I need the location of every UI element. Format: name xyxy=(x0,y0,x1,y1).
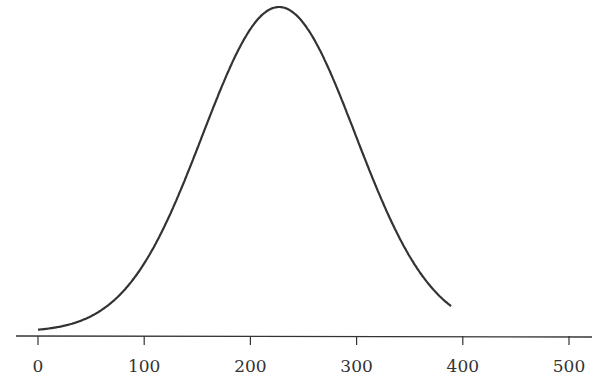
normal-curve-line xyxy=(38,7,451,330)
normal-distribution-chart: 0100200300400500 xyxy=(0,0,592,387)
x-tick-label: 200 xyxy=(234,356,266,376)
x-axis-tick-labels: 0100200300400500 xyxy=(33,356,586,376)
x-tick-label: 500 xyxy=(553,356,585,376)
x-tick-label: 100 xyxy=(128,356,160,376)
x-tick-label: 400 xyxy=(447,356,479,376)
x-tick-label: 0 xyxy=(33,356,44,376)
x-axis-line xyxy=(16,336,592,337)
x-tick-label: 300 xyxy=(340,356,372,376)
